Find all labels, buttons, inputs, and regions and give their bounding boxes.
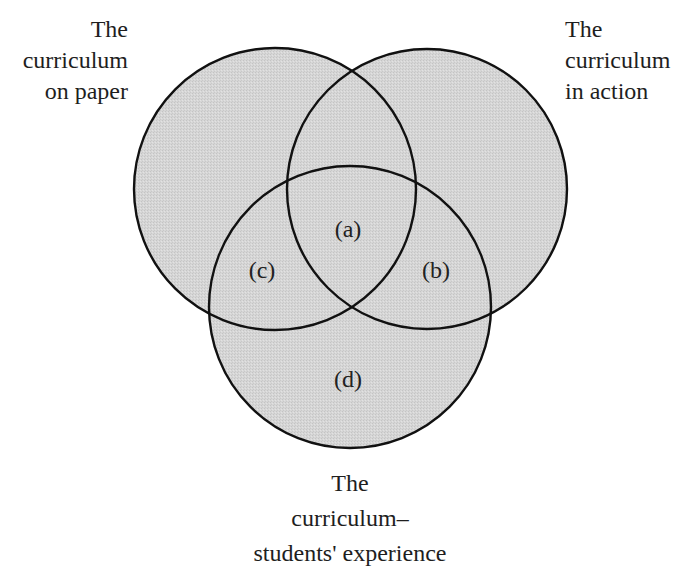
- caption-curriculum-on-paper: The curriculum on paper: [23, 14, 128, 107]
- caption-line: in action: [565, 76, 670, 107]
- caption-curriculum-in-action: The curriculum in action: [565, 14, 670, 107]
- caption-line: The: [150, 466, 550, 501]
- caption-line: The: [23, 14, 128, 45]
- region-label-d: (d): [334, 367, 362, 391]
- caption-line: The: [565, 14, 670, 45]
- region-label-a: (a): [335, 217, 362, 241]
- region-label-b: (b): [422, 258, 450, 282]
- caption-students-experience: The curriculum– students' experience: [150, 466, 550, 568]
- caption-line: curriculum–: [150, 501, 550, 536]
- caption-line: curriculum: [23, 45, 128, 76]
- caption-line: students' experience: [150, 536, 550, 568]
- caption-line: on paper: [23, 76, 128, 107]
- region-label-c: (c): [249, 258, 276, 282]
- caption-line: curriculum: [565, 45, 670, 76]
